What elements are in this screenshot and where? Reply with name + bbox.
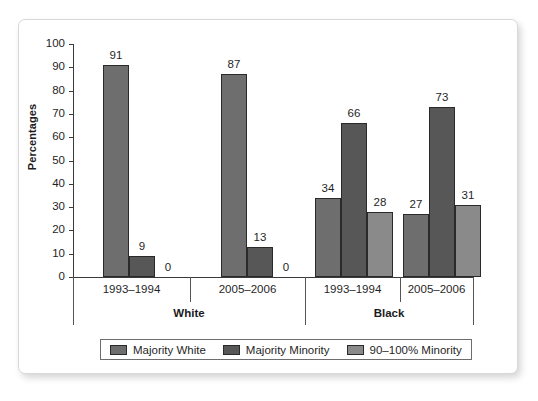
bar-value-label: 87: [214, 58, 254, 70]
x-tier2-label: Black: [329, 307, 449, 319]
y-tick-label: 30: [32, 200, 65, 212]
bar: [315, 198, 341, 277]
bar-value-label: 0: [148, 261, 188, 273]
legend-swatch-icon: [110, 345, 127, 355]
x-axis-line: [73, 277, 473, 278]
bar: [403, 214, 429, 277]
y-tick-label: 70: [32, 107, 65, 119]
legend-swatch-icon: [223, 345, 240, 355]
y-tick-label: 90: [32, 60, 65, 72]
legend-item: Majority Minority: [223, 344, 330, 356]
legend-label: Majority Minority: [246, 344, 330, 356]
bar-value-label: 66: [334, 107, 374, 119]
y-tick-label: 0: [32, 270, 65, 282]
bar: [221, 74, 247, 277]
x-tier1-label: 2005–2006: [387, 283, 487, 295]
y-tick-label: 10: [32, 247, 65, 259]
x-tier2-label: White: [129, 307, 249, 319]
bar: [455, 205, 481, 277]
legend-item: 90–100% Minority: [347, 344, 462, 356]
legend-swatch-icon: [347, 345, 364, 355]
bar-value-label: 28: [360, 196, 400, 208]
y-tick-label: 40: [32, 177, 65, 189]
bar-value-label: 13: [240, 231, 280, 243]
x-tier1-label: 2005–2006: [198, 283, 298, 295]
bar-value-label: 9: [122, 240, 162, 252]
bar-value-label: 0: [266, 261, 306, 273]
y-tick-label: 80: [32, 84, 65, 96]
y-tick-label: 100: [32, 37, 65, 49]
x-tier1-label: 1993–1994: [82, 283, 182, 295]
legend-label: Majority White: [133, 344, 206, 356]
legend-label: 90–100% Minority: [370, 344, 462, 356]
bar-value-label: 91: [96, 49, 136, 61]
y-tick-label: 20: [32, 223, 65, 235]
chart-legend: Majority WhiteMajority Minority90–100% M…: [100, 339, 472, 360]
bar-chart: Percentages 1009080706050403020100 91908…: [0, 0, 538, 401]
legend-item: Majority White: [110, 344, 206, 356]
y-tick-label: 60: [32, 130, 65, 142]
y-tick-label: 50: [32, 154, 65, 166]
bar-value-label: 73: [422, 91, 462, 103]
axis-separator: [190, 277, 191, 302]
bar-value-label: 31: [448, 189, 488, 201]
bar: [367, 212, 393, 277]
bars-layer: 919087130346628277331: [73, 44, 473, 277]
group-separator: [73, 277, 74, 325]
